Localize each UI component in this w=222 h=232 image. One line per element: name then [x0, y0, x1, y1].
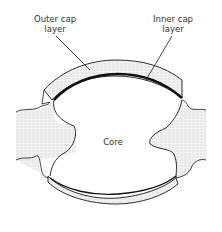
capping-diagram	[0, 0, 222, 232]
outer-cap-label-line1: Outer cap	[30, 14, 80, 24]
outer-cap-label-line2: layer	[30, 24, 80, 34]
core-label: Core	[100, 137, 126, 147]
outer-cap-top	[44, 60, 182, 100]
outer-cap-bottom	[48, 176, 178, 204]
left-specimen-region	[16, 100, 76, 178]
inner-cap-label-line2: layer	[150, 24, 196, 34]
outer-cap-label: Outer cap layer	[30, 14, 80, 34]
inner-cap-label-line1: Inner cap	[150, 14, 196, 24]
inner-cap-label: Inner cap layer	[150, 14, 196, 34]
outer-cap-leader	[56, 36, 90, 70]
